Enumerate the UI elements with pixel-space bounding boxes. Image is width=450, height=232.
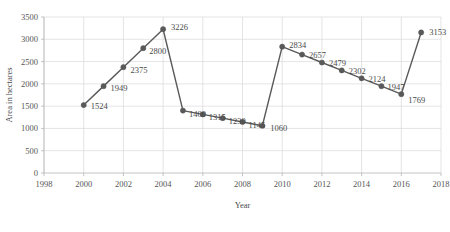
x-tick-label: 2008 xyxy=(234,179,251,189)
data-point-label: 1769 xyxy=(408,95,425,105)
x-tick-label: 2010 xyxy=(274,179,291,189)
data-point-label: 2834 xyxy=(289,40,307,50)
axes xyxy=(41,17,441,176)
data-point-label: 2124 xyxy=(369,74,387,84)
data-point-labels: 1524194923752800322614001315123011451060… xyxy=(91,22,446,133)
data-point-label: 2479 xyxy=(329,58,346,68)
y-tick-label: 500 xyxy=(25,146,38,156)
x-tick-label: 2018 xyxy=(433,179,450,189)
y-tick-label: 3500 xyxy=(21,12,38,22)
x-tick-label: 2014 xyxy=(353,179,371,189)
x-tick-label: 2012 xyxy=(313,179,330,189)
data-point-label: 2302 xyxy=(349,66,366,76)
y-tick-label: 2000 xyxy=(21,79,38,89)
data-point-label: 1524 xyxy=(91,101,109,111)
y-tick-label: 1000 xyxy=(21,123,38,133)
y-tick-label: 0 xyxy=(34,168,38,178)
x-tick-label: 2004 xyxy=(155,179,173,189)
data-point-label: 1947 xyxy=(387,82,404,92)
data-point-label: 1949 xyxy=(111,83,128,93)
data-point-label: 1145 xyxy=(249,120,266,130)
x-tick-label: 2006 xyxy=(194,179,211,189)
data-point-label: 1315 xyxy=(209,112,226,122)
data-point-label: 1400 xyxy=(189,109,206,119)
data-point-label: 2375 xyxy=(130,65,147,75)
y-tick-label: 3000 xyxy=(21,34,38,44)
line-chart: 0500100015002000250030003500 19982000200… xyxy=(0,0,450,232)
x-tick-label: 2016 xyxy=(393,179,410,189)
data-point-label: 1230 xyxy=(229,116,246,126)
data-point-label: 2800 xyxy=(149,46,166,56)
y-axis-title: Area in hectares xyxy=(4,67,14,122)
data-point-label: 1060 xyxy=(270,123,287,133)
data-point-label: 2657 xyxy=(309,50,326,60)
y-tick-label: 1500 xyxy=(21,101,38,111)
chart-canvas: 0500100015002000250030003500 19982000200… xyxy=(0,0,450,232)
y-tick-labels: 0500100015002000250030003500 xyxy=(21,12,38,178)
gridlines xyxy=(44,17,441,173)
x-tick-label: 1998 xyxy=(36,179,53,189)
data-point-label: 3153 xyxy=(429,27,446,37)
y-tick-label: 2500 xyxy=(21,57,38,67)
x-tick-label: 2000 xyxy=(75,179,92,189)
x-axis-title: Year xyxy=(235,200,251,210)
data-point-label: 3226 xyxy=(171,22,188,32)
x-tick-labels: 1998200020022004200620082010201220142016… xyxy=(36,179,450,189)
x-tick-label: 2002 xyxy=(115,179,132,189)
